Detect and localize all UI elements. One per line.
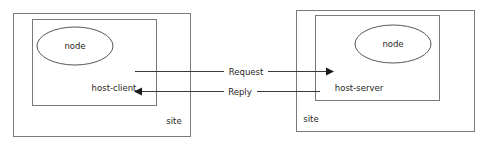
diagram-canvas: node host-client site node host-server s… [0,0,488,144]
right-node-label: node [382,39,403,49]
left-site-group: node host-client site [14,14,191,137]
left-site-label: site [166,116,181,126]
reply-flow-group: Reply [134,87,320,97]
request-label: Request [229,67,264,77]
left-host-label: host-client [92,83,137,93]
reply-label: Reply [228,87,252,97]
right-site-label: site [303,114,318,124]
right-host-label: host-server [335,83,384,93]
left-node-label: node [64,41,85,51]
left-site-box [14,14,191,137]
request-flow-group: Request [135,67,334,77]
diagram-svg: node host-client site node host-server s… [0,0,488,144]
request-arrowhead-icon [326,68,334,76]
